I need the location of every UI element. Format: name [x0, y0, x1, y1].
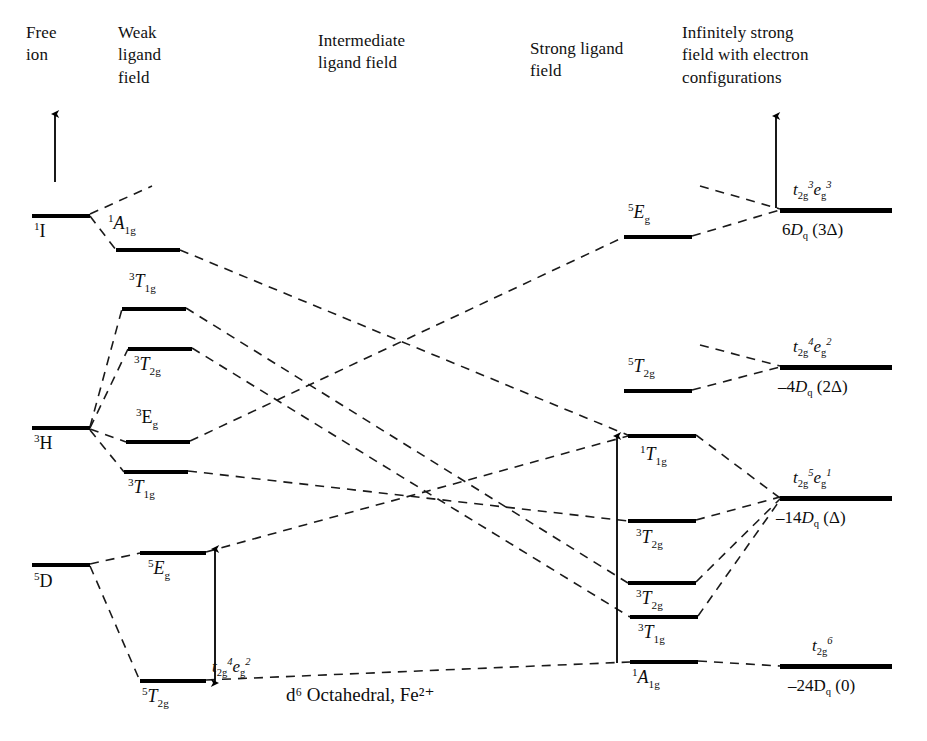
term-symbol-label: 5D [34, 572, 53, 590]
correlation-line [90, 349, 128, 428]
energy-level-bar [122, 307, 186, 311]
correlation-line [696, 497, 780, 520]
correlation-line [192, 348, 630, 617]
correlation-line [692, 367, 780, 390]
term-symbol-label: 1A1g [632, 668, 660, 686]
correlation-line [190, 237, 624, 441]
correlation-line [692, 210, 780, 236]
energy-level-bar [128, 347, 192, 351]
term-symbol-label: 5T2g [142, 687, 169, 705]
correlation-line [700, 345, 780, 366]
energy-level-diagram: Free ion Weak ligand field Intermediate … [0, 0, 927, 741]
term-symbol-label: 3Eg [136, 408, 158, 426]
term-symbol-label: 3T2g [636, 589, 663, 607]
energy-level-bar [780, 208, 892, 213]
correlation-line [696, 435, 780, 498]
diagram-caption: d⁶ Octahedral, Fe²⁺ [286, 683, 434, 706]
term-symbol-label: 3T2g [636, 528, 663, 546]
energy-level-bar [780, 496, 892, 501]
correlation-line [206, 662, 630, 680]
energy-level-bar [628, 434, 696, 438]
correlation-line [90, 429, 126, 442]
energy-level-bar [628, 519, 696, 523]
electron-configuration-label: t2g4eg2 [793, 337, 832, 357]
term-symbol-label: 1A1g [108, 214, 136, 232]
correlation-line [698, 500, 780, 616]
correlation-line [90, 309, 122, 427]
term-symbol-label: 5Eg [148, 559, 170, 577]
energy-value-label: –24Dq (0) [788, 676, 855, 696]
electron-configuration-label: t2g5eg1 [793, 468, 832, 488]
energy-level-bar [628, 581, 696, 585]
energy-level-bar [780, 664, 892, 669]
energy-level-bar [126, 440, 190, 444]
energy-level-bar [780, 365, 892, 370]
term-symbol-label: 3T1g [638, 623, 665, 641]
term-symbol-label: 3T1g [128, 478, 155, 496]
term-symbol-label: 3H [34, 434, 53, 452]
column-header-infinite-field: Infinitely strong field with electron co… [682, 22, 872, 89]
term-symbol-label: 5T2g [628, 357, 655, 375]
energy-value-label: 6Dq (3Δ) [782, 220, 843, 240]
correlation-line [186, 308, 628, 583]
energy-value-label: –14Dq (Δ) [776, 508, 846, 528]
term-symbol-label: 1T1g [640, 445, 667, 463]
energy-level-bar [116, 248, 180, 252]
energy-level-bar [32, 563, 90, 567]
energy-value-label: –4Dq (2Δ) [778, 377, 848, 397]
correlation-line [90, 186, 152, 214]
correlation-line [188, 471, 628, 521]
correlation-line [90, 430, 124, 472]
correlation-line [206, 436, 628, 552]
electron-configuration-label: t2g3eg3 [793, 180, 832, 200]
correlation-line [700, 186, 780, 209]
correlation-line [698, 661, 780, 666]
correlation-line [90, 553, 140, 564]
energy-level-bar [140, 551, 206, 555]
term-symbol-label: 3T2g [134, 355, 161, 373]
correlation-line [90, 566, 140, 681]
electron-configuration-label: t2g6 [812, 636, 833, 656]
column-header-strong-field: Strong ligand field [530, 38, 680, 83]
column-header-free-ion: Free ion [26, 22, 106, 67]
energy-level-bar [630, 660, 698, 664]
energy-level-bar [124, 470, 188, 474]
annotation-weak-config: t2g4eg2 [212, 657, 251, 677]
term-symbol-label: 1I [34, 222, 46, 240]
column-header-weak-field: Weak ligand field [118, 22, 228, 89]
energy-level-bar [624, 389, 692, 393]
column-header-intermediate-field: Intermediate ligand field [318, 30, 478, 75]
term-symbol-label: 3T1g [129, 272, 156, 290]
energy-level-bar [32, 214, 90, 218]
energy-level-bar [140, 679, 206, 683]
energy-level-bar [32, 426, 90, 430]
correlation-line [180, 250, 630, 436]
energy-level-bar [630, 615, 698, 619]
energy-level-bar [624, 235, 692, 239]
correlation-line [696, 499, 780, 582]
term-symbol-label: 5Eg [628, 203, 650, 221]
